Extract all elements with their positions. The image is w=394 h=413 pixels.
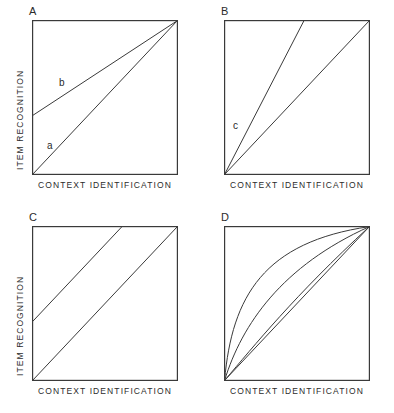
plot-area-a	[32, 20, 178, 175]
panel-b: B c CONTEXT IDENTIFICATION	[197, 0, 394, 206]
curve-label-b: b	[59, 78, 65, 88]
curve-d-line-c	[33, 227, 122, 322]
x-axis-label-a: CONTEXT IDENTIFICATION	[25, 181, 185, 190]
panel-letter-b: B	[221, 6, 229, 17]
figure-panel-grid: A ITEM RECOGNITION b a CONTEXT IDENTIFIC…	[0, 0, 394, 413]
curve-a-line-a	[33, 21, 178, 175]
curve-label-c: c	[233, 121, 238, 131]
panel-a: A ITEM RECOGNITION b a CONTEXT IDENTIFIC…	[0, 0, 197, 206]
y-axis-label-c: ITEM RECOGNITION	[16, 276, 25, 376]
x-axis-label-d: CONTEXT IDENTIFICATION	[217, 387, 377, 396]
curve-diagonal-c	[33, 227, 178, 381]
y-axis-label-a: ITEM RECOGNITION	[16, 70, 25, 170]
x-axis-label-c: CONTEXT IDENTIFICATION	[25, 387, 185, 396]
curve-diagonal-b	[225, 21, 370, 175]
curve-b-line-a	[33, 21, 178, 116]
curve-label-a: a	[47, 141, 53, 151]
plot-area-b	[224, 20, 370, 175]
panel-letter-a: A	[29, 6, 37, 17]
panel-c: C ITEM RECOGNITION d CONTEXT IDENTIFICAT…	[0, 206, 197, 412]
panel-letter-c: C	[29, 212, 37, 223]
curve-diagonal-d	[225, 227, 370, 381]
curve-c-line-b	[225, 21, 304, 175]
plot-area-d	[224, 226, 370, 381]
panel-letter-d: D	[221, 212, 229, 223]
panel-d: D e CONTEXT IDENTIFICATION	[197, 206, 394, 412]
x-axis-label-b: CONTEXT IDENTIFICATION	[217, 181, 377, 190]
plot-area-c	[32, 226, 178, 381]
